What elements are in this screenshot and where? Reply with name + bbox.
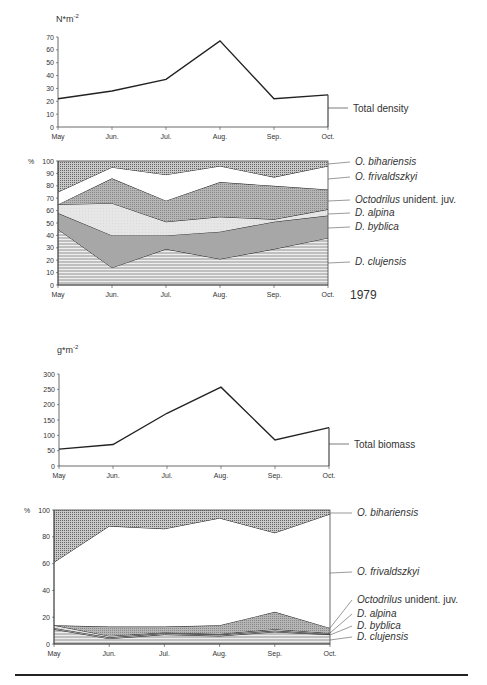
y-tick-label: 250 [43, 386, 55, 393]
x-tick-label: May [51, 133, 65, 141]
x-tick-label: Jun. [103, 650, 116, 657]
x-tick-label: Jun. [105, 133, 118, 140]
legend-label: D. byblica [355, 221, 399, 232]
y-tick-label: 100 [43, 432, 55, 439]
y-tick-label: 100 [38, 507, 50, 514]
legend-label: D. clujensis [355, 256, 406, 267]
x-tick-label: Jul. [159, 650, 170, 657]
x-tick-label: May [52, 472, 66, 480]
x-tick-label: Jul. [161, 291, 172, 298]
x-tick-label: Jun. [105, 291, 118, 298]
y-tick-label: 40 [46, 72, 54, 79]
y-tick-label: 0 [51, 463, 55, 470]
x-tick-label: May [51, 291, 65, 299]
x-tick-label: Jul. [162, 472, 173, 479]
biomass-line-chart: g*m-2050100150200250300MayJun.Jul.Aug.Se… [43, 344, 415, 480]
x-tick-label: Oct. [322, 291, 335, 298]
legend-label: Octodrilus unident. juv. [357, 594, 458, 605]
y-tick-label: 60 [46, 46, 54, 53]
x-tick-label: Jul. [161, 133, 172, 140]
y-tick-label: 300 [43, 371, 55, 378]
series-label: Total biomass [354, 439, 415, 450]
x-tick-label: Sep. [268, 650, 282, 658]
year-label: 1979 [350, 288, 377, 302]
y-tick-label: 50 [46, 220, 54, 227]
legend-label: O. frivaldszkyi [355, 171, 418, 182]
y-tick-label: 0 [50, 124, 54, 131]
legend-label: O. bihariensis [355, 156, 416, 167]
legend-label: D. clujensis [357, 631, 408, 642]
x-tick-label: May [47, 650, 61, 658]
y-tick-label: 50 [46, 59, 54, 66]
total-line [58, 41, 328, 99]
y-tick-label: 90 [46, 170, 54, 177]
y-tick-label: 80 [42, 533, 50, 540]
y-tick-label: 20 [46, 257, 54, 264]
legend-label: O. frivaldszkyi [357, 566, 420, 577]
unit-label: g*m-2 [57, 344, 79, 355]
y-tick-label: 30 [46, 244, 54, 251]
x-tick-label: Oct. [322, 133, 335, 140]
y-tick-label: 30 [46, 85, 54, 92]
legend-label: D. alpina [355, 207, 395, 218]
legend-label: O. bihariensis [357, 507, 418, 518]
total-line [59, 387, 329, 449]
density-line-chart: N*m-2010203040506070MayJun.Jul.Aug.Sep.O… [46, 13, 408, 141]
y-tick-label: 20 [46, 98, 54, 105]
y-tick-label: 60 [46, 207, 54, 214]
y-tick-label: 150 [43, 417, 55, 424]
y-tick-label: 200 [43, 401, 55, 408]
y-tick-label: 10 [46, 269, 54, 276]
series-label: Total density [353, 103, 409, 114]
y-tick-label: 60 [42, 560, 50, 567]
x-tick-label: Aug. [213, 291, 227, 299]
y-tick-label: 70 [46, 34, 54, 41]
y-tick-label: 70 [46, 195, 54, 202]
unit-label: N*m-2 [56, 13, 79, 24]
legend-label: D. alpina [357, 608, 397, 619]
y-tick-label: 80 [46, 182, 54, 189]
unit-label: % [24, 507, 30, 514]
y-tick-label: 10 [46, 111, 54, 118]
density-percent-chart: %0102030405060708090100MayJun.Jul.Aug.Se… [28, 156, 456, 302]
x-tick-label: Sep. [267, 133, 281, 141]
y-tick-label: 40 [46, 232, 54, 239]
y-tick-label: 0 [50, 282, 54, 289]
y-tick-label: 50 [47, 447, 55, 454]
y-tick-label: 40 [42, 587, 50, 594]
y-tick-label: 20 [42, 614, 50, 621]
x-tick-label: Oct. [323, 472, 336, 479]
x-tick-label: Aug. [213, 133, 227, 141]
unit-label: % [28, 158, 34, 165]
x-tick-label: Aug. [212, 650, 226, 658]
x-tick-label: Sep. [268, 472, 282, 480]
legend-label: D. byblica [357, 620, 401, 631]
x-tick-label: Oct. [324, 650, 337, 657]
legend-label: Octodrilus unident. juv. [355, 194, 456, 205]
y-tick-label: 0 [46, 641, 50, 648]
biomass-percent-chart: %020406080100MayJun.Jul.Aug.Sep.Oct.O. b… [24, 507, 458, 659]
y-tick-label: 100 [42, 158, 54, 165]
x-tick-label: Jun. [106, 472, 119, 479]
x-tick-label: Sep. [267, 291, 281, 299]
figure: N*m-2010203040506070MayJun.Jul.Aug.Sep.O… [0, 0, 487, 685]
x-tick-label: Aug. [214, 472, 228, 480]
